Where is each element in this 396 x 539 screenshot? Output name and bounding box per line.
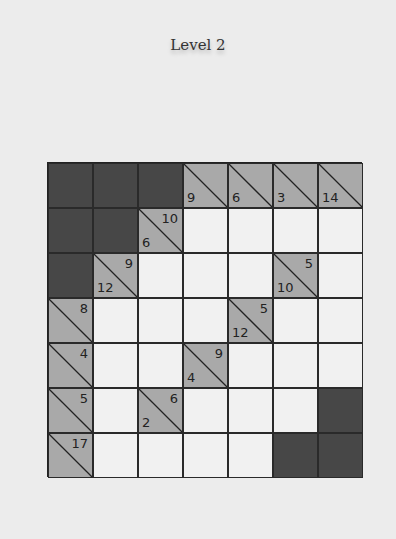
down-clue: 14 xyxy=(322,190,339,205)
blocked-cell xyxy=(93,208,138,253)
entry-cell[interactable] xyxy=(93,433,138,478)
entry-cell[interactable] xyxy=(183,433,228,478)
across-clue: 9 xyxy=(215,346,223,361)
clue-cell: 510 xyxy=(273,253,318,298)
down-clue: 12 xyxy=(232,325,249,340)
blocked-cell xyxy=(318,433,363,478)
down-clue: 12 xyxy=(97,280,114,295)
clue-cell: 912 xyxy=(93,253,138,298)
entry-cell[interactable] xyxy=(228,388,273,433)
entry-cell[interactable] xyxy=(318,208,363,253)
clue-cell: 14 xyxy=(318,163,363,208)
entry-cell[interactable] xyxy=(183,208,228,253)
entry-cell[interactable] xyxy=(273,343,318,388)
entry-cell[interactable] xyxy=(183,388,228,433)
entry-cell[interactable] xyxy=(228,253,273,298)
level-title: Level 2 xyxy=(0,36,396,54)
blocked-cell xyxy=(138,163,183,208)
entry-cell[interactable] xyxy=(228,343,273,388)
entry-cell[interactable] xyxy=(273,208,318,253)
blocked-cell xyxy=(48,208,93,253)
entry-cell[interactable] xyxy=(138,298,183,343)
down-clue: 6 xyxy=(232,190,240,205)
entry-cell[interactable] xyxy=(318,298,363,343)
blocked-cell xyxy=(93,163,138,208)
blocked-cell xyxy=(48,163,93,208)
across-clue: 8 xyxy=(80,301,88,316)
clue-cell: 5 xyxy=(48,388,93,433)
down-clue: 3 xyxy=(277,190,285,205)
entry-cell[interactable] xyxy=(273,388,318,433)
entry-cell[interactable] xyxy=(183,298,228,343)
entry-cell[interactable] xyxy=(273,298,318,343)
entry-cell[interactable] xyxy=(318,343,363,388)
across-clue: 9 xyxy=(125,256,133,271)
clue-cell: 4 xyxy=(48,343,93,388)
clue-cell: 17 xyxy=(48,433,93,478)
entry-cell[interactable] xyxy=(93,388,138,433)
across-clue: 5 xyxy=(80,391,88,406)
down-clue: 2 xyxy=(142,415,150,430)
clue-cell: 3 xyxy=(273,163,318,208)
clue-cell: 106 xyxy=(138,208,183,253)
down-clue: 9 xyxy=(187,190,195,205)
entry-cell[interactable] xyxy=(138,253,183,298)
entry-cell[interactable] xyxy=(228,433,273,478)
across-clue: 5 xyxy=(305,256,313,271)
across-clue: 10 xyxy=(161,211,178,226)
blocked-cell xyxy=(318,388,363,433)
clue-cell: 8 xyxy=(48,298,93,343)
entry-cell[interactable] xyxy=(138,343,183,388)
entry-cell[interactable] xyxy=(93,343,138,388)
down-clue: 6 xyxy=(142,235,150,250)
clue-cell: 6 xyxy=(228,163,273,208)
clue-cell: 62 xyxy=(138,388,183,433)
clue-cell: 512 xyxy=(228,298,273,343)
kakuro-grid: 96314106912510851249456217 xyxy=(47,162,362,477)
down-clue: 4 xyxy=(187,370,195,385)
entry-cell[interactable] xyxy=(183,253,228,298)
blocked-cell xyxy=(273,433,318,478)
entry-cell[interactable] xyxy=(228,208,273,253)
clue-cell: 9 xyxy=(183,163,228,208)
across-clue: 5 xyxy=(260,301,268,316)
across-clue: 6 xyxy=(170,391,178,406)
down-clue: 10 xyxy=(277,280,294,295)
clue-cell: 94 xyxy=(183,343,228,388)
entry-cell[interactable] xyxy=(138,433,183,478)
entry-cell[interactable] xyxy=(93,298,138,343)
across-clue: 4 xyxy=(80,346,88,361)
entry-cell[interactable] xyxy=(318,253,363,298)
across-clue: 17 xyxy=(71,436,88,451)
blocked-cell xyxy=(48,253,93,298)
